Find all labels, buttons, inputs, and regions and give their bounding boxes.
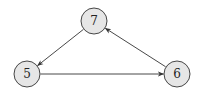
graph-canvas: 756 [0,0,204,93]
nodes: 756 [14,8,190,87]
edge-6-to-7 [105,28,165,66]
node-5: 5 [14,61,40,87]
node-label: 6 [173,67,181,81]
node-label: 7 [90,14,98,28]
edge-7-to-5 [38,29,84,65]
node-7: 7 [81,8,107,34]
edges [38,28,166,74]
node-6: 6 [164,61,190,87]
node-label: 5 [23,67,31,81]
